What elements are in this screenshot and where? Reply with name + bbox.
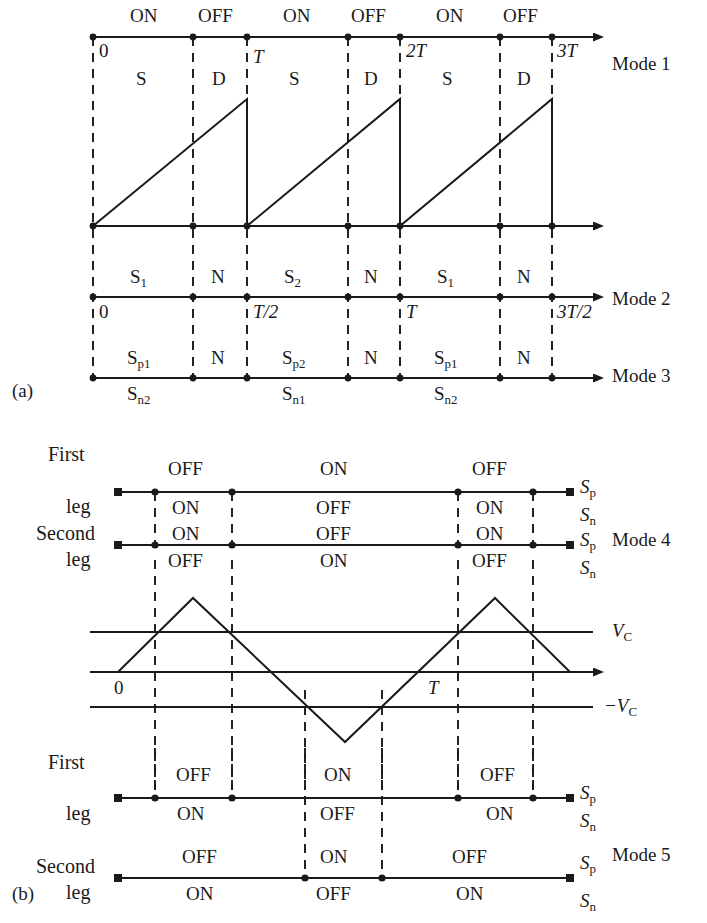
mode5-leg1-sp-label: Sp: [580, 783, 596, 802]
mode1-gate-state-3: OFF: [351, 6, 386, 25]
mode2-tick-label-T2: T/2: [253, 302, 278, 321]
mode3-upper-state-3: N: [364, 348, 378, 367]
mode4-leg2-lower-1: ON: [320, 551, 347, 570]
carrier-tick-label-T: T: [428, 678, 439, 697]
mode1-device-state-0: S: [136, 69, 147, 88]
panel-b-label: (b): [12, 884, 34, 903]
mode4-leg1-upper-2: OFF: [472, 459, 507, 478]
mode5-leg2-upper-0: OFF: [182, 847, 217, 866]
mode1-gate-state-2: ON: [283, 6, 310, 25]
mode2-tick-label-0: 0: [99, 302, 109, 321]
mode4-second-leg-name-line1: Second: [36, 523, 95, 543]
mode5-leg2-sn-label: Sn: [580, 891, 596, 910]
mode3-upper-state-5: N: [517, 348, 531, 367]
panel-a-label: (a): [12, 381, 33, 400]
carrier-tick-label-0: 0: [114, 678, 124, 697]
mode5-leg1-sn-label: Sn: [580, 811, 596, 830]
mode3-upper-state-0: Sp1: [127, 348, 150, 367]
mode5-title: Mode 5: [612, 845, 671, 864]
mode1-device-state-2: S: [289, 69, 300, 88]
mode1-gate-state-1: OFF: [198, 6, 233, 25]
mode5-leg1-upper-1: ON: [324, 765, 351, 784]
mode4-second-leg-name-line2: leg: [66, 549, 90, 569]
mode5-leg2-lower-1: OFF: [316, 884, 351, 903]
mode4-leg2-sp-label: Sp: [580, 530, 596, 549]
switching-pattern-figure: [0, 0, 707, 923]
mode2-state-1: N: [211, 267, 225, 286]
mode3-upper-state-1: N: [211, 348, 225, 367]
mode3-title: Mode 3: [612, 366, 671, 385]
mode1-tick-label-T: T: [253, 47, 264, 66]
mode1-device-state-3: D: [364, 69, 378, 88]
mode5-first-leg-name-line1: First: [48, 752, 85, 772]
mode2-state-2: S2: [284, 267, 301, 286]
mode4-leg2-lower-2: OFF: [472, 551, 507, 570]
mode1-tick-label-2T: 2T: [406, 41, 426, 60]
mode1-device-state-1: D: [212, 69, 226, 88]
carrier-dashed-guides: [155, 560, 533, 790]
mode1-title: Mode 1: [612, 54, 671, 73]
mode5-second-leg-name-line2: leg: [66, 882, 90, 902]
mode3-upper-state-4: Sp1: [434, 348, 457, 367]
mode5-leg1-lower-1: OFF: [320, 804, 355, 823]
mode2-tick-label-T: T: [406, 302, 417, 321]
mode5-first-leg-name-line2: leg: [66, 803, 90, 823]
mode4-leg1-lower-0: ON: [172, 498, 199, 517]
mode4-leg1-lower-1: OFF: [316, 498, 351, 517]
mode2-state-3: N: [364, 267, 378, 286]
mode2-state-5: N: [517, 267, 531, 286]
mode2-title: Mode 2: [612, 289, 671, 308]
carrier-vc-label: VC: [612, 621, 632, 640]
carrier-negative-vc-label: −VC: [604, 696, 637, 715]
mode5-leg2-lower-2: ON: [456, 884, 483, 903]
mode1-tick-label-3T: 3T: [557, 41, 577, 60]
mode4-leg2-upper-0: ON: [172, 524, 199, 543]
mode1-gate-state-0: ON: [130, 6, 157, 25]
mode5-leg1-lower-2: ON: [486, 804, 513, 823]
mode1-tick-label-0: 0: [99, 41, 109, 60]
mode4-leg1-lower-2: ON: [476, 498, 503, 517]
mode4-first-leg-name-line2: leg: [66, 496, 90, 516]
mode1-device-state-4: S: [442, 69, 453, 88]
mode4-leg1-upper-1: ON: [320, 459, 347, 478]
mode3-lower-state-1: Sn1: [282, 384, 305, 403]
mode2-state-0: S1: [130, 267, 147, 286]
mode5-leg2-lower-0: ON: [186, 884, 213, 903]
mode5-leg2-upper-1: ON: [320, 847, 347, 866]
mode4-leg2-upper-2: ON: [476, 524, 503, 543]
mode2-state-4: S1: [437, 267, 454, 286]
mode1-3-dashed-guides: [93, 37, 552, 378]
mode1-sawtooth-waveform: [93, 99, 552, 226]
mode1-gate-state-5: OFF: [503, 6, 538, 25]
mode4-leg2-sn-label: Sn: [580, 558, 596, 577]
mode1-gate-state-4: ON: [436, 6, 463, 25]
mode5-leg2-upper-2: OFF: [452, 847, 487, 866]
mode4-leg2-lower-0: OFF: [168, 551, 203, 570]
mode4-title: Mode 4: [612, 530, 671, 549]
mode5-leg1-lower-0: ON: [177, 804, 204, 823]
mode4-first-leg-name-line1: First: [48, 444, 85, 464]
mode1-device-state-5: D: [517, 69, 531, 88]
mode5-leg2-sp-label: Sp: [580, 853, 596, 872]
mode4-leg1-sn-label: Sn: [580, 505, 596, 524]
mode2-tick-label-3T2: 3T/2: [557, 302, 592, 321]
mode4-leg1-upper-0: OFF: [168, 459, 203, 478]
mode3-lower-state-0: Sn2: [127, 384, 150, 403]
triangular-carrier-waveform: [118, 598, 570, 742]
mode5-second-leg-name-line1: Second: [36, 856, 95, 876]
mode5-leg1-upper-2: OFF: [480, 765, 515, 784]
mode3-lower-state-2: Sn2: [434, 384, 457, 403]
mode3-upper-state-2: Sp2: [282, 348, 305, 367]
mode4-leg2-upper-1: OFF: [316, 524, 351, 543]
mode5-leg1-upper-0: OFF: [176, 765, 211, 784]
mode4-leg1-sp-label: Sp: [580, 477, 596, 496]
